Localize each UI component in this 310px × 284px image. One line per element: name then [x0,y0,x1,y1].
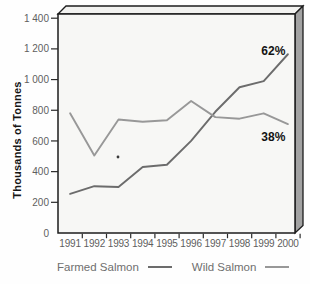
share-annotation: 62% [261,44,285,58]
legend-item-farmed-salmon: Farmed Salmon [57,261,172,273]
x-year-label: 1992 [84,238,106,249]
y-tick-label: 200 [32,197,49,208]
x-year-label: 2000 [277,238,299,249]
chart-top-face-3d [58,6,303,14]
legend-label-wild-salmon: Wild Salmon [192,261,257,273]
farmed-salmon-line-swatch [148,266,172,268]
wild-salmon-line-swatch [265,266,289,268]
y-tick-label: 1 200 [24,43,49,54]
scan-speck-artifact [117,156,120,159]
legend-item-wild-salmon: Wild Salmon [192,261,290,273]
legend-label-farmed-salmon: Farmed Salmon [57,261,139,273]
x-year-label: 1993 [108,238,130,249]
y-axis-title: Thousands of Tonnes [11,81,23,198]
chart-right-face-3d [295,6,303,233]
salmon-production-chart: Thousands of Tonnes 02004006008001 0001 … [0,0,310,284]
y-tick-label: 1 000 [24,74,49,85]
x-year-label: 1994 [132,238,154,249]
x-year-label: 1996 [180,238,202,249]
share-annotation: 38% [261,130,285,144]
x-year-label: 1995 [156,238,178,249]
y-tick-label: 1 400 [24,13,49,24]
y-tick-label: 800 [32,105,49,116]
y-tick-label: 0 [43,228,49,239]
chart-canvas: 02004006008001 0001 2001 400199119921993… [0,0,310,284]
chart-plot-area [58,14,295,233]
x-year-label: 1999 [253,238,275,249]
y-tick-label: 400 [32,166,49,177]
legend: Farmed Salmon Wild Salmon [57,261,289,273]
x-year-label: 1997 [205,238,227,249]
x-year-label: 1998 [229,238,251,249]
x-year-label: 1991 [59,238,81,249]
y-tick-label: 600 [32,136,49,147]
